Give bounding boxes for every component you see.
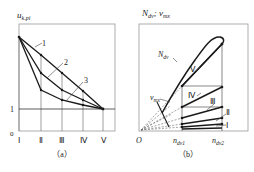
caption-a: （a） bbox=[52, 150, 72, 159]
figure: uk.pi 1 2 3 1 0 Ⅰ Ⅱ Ⅲ Ⅳ Ⅴ （a） bbox=[0, 0, 254, 172]
leader-V bbox=[196, 67, 200, 71]
ray-V bbox=[141, 86, 182, 130]
leader-1 bbox=[35, 43, 42, 47]
point-c1-III bbox=[61, 72, 63, 74]
point-c3-II bbox=[40, 89, 42, 91]
leader-I bbox=[216, 125, 226, 126]
ray-III bbox=[141, 118, 182, 130]
curve-label-3: 3 bbox=[84, 76, 88, 85]
x-tick-ndv1: ndv1 bbox=[173, 136, 185, 146]
gear-label-IV: Ⅳ bbox=[188, 91, 196, 100]
point-ndv1-III bbox=[181, 117, 184, 120]
panel-b: Ndv; vmx Ndv vmx Ⅴ Ⅳ Ⅲ Ⅱ Ⅰ O ndv1 ndv2 （… bbox=[136, 8, 248, 159]
point-c3-IV bbox=[82, 104, 84, 106]
point-ndv2-IV bbox=[221, 86, 224, 89]
y-axis-label-a: uk.pi bbox=[17, 10, 31, 21]
curve-label-vmx: vmx bbox=[150, 93, 161, 103]
x-tick-III: Ⅲ bbox=[59, 136, 65, 145]
point-c2-II bbox=[40, 72, 42, 74]
x-tick-II: Ⅱ bbox=[39, 136, 43, 145]
point-c1-IV bbox=[82, 90, 84, 92]
point-ndv1-IV bbox=[181, 106, 184, 109]
caption-b: （b） bbox=[178, 150, 198, 159]
y-axis-label-b: Ndv; vmx bbox=[141, 8, 170, 19]
y-tick-one: 1 bbox=[10, 105, 14, 114]
origin-label-b: O bbox=[136, 136, 142, 145]
gear-line-base bbox=[182, 128, 222, 129]
point-ndv2-I bbox=[221, 123, 224, 126]
x-tick-V: Ⅴ bbox=[101, 136, 107, 145]
gear-line-I bbox=[182, 124, 222, 127]
x-tick-I: Ⅰ bbox=[18, 136, 20, 145]
point-ndv1-V bbox=[181, 85, 184, 88]
leader-2 bbox=[47, 63, 63, 78]
x-tick-ndv2: ndv2 bbox=[212, 136, 224, 146]
leader-ndv bbox=[173, 58, 177, 62]
curve-label-ndv: Ndv bbox=[157, 50, 169, 60]
point-ndv1-I bbox=[181, 126, 184, 129]
point-c3-III bbox=[61, 99, 63, 101]
point-ndv1-II bbox=[181, 123, 184, 126]
ray-I bbox=[141, 127, 182, 130]
point-c2-III bbox=[61, 89, 63, 91]
vmx-line bbox=[157, 102, 169, 127]
point-end bbox=[102, 108, 105, 111]
point-start bbox=[18, 36, 21, 39]
point-ndv2-V bbox=[221, 43, 224, 46]
point-c2-IV bbox=[82, 99, 84, 101]
gear-label-I: Ⅰ bbox=[226, 121, 228, 130]
gear-label-II: Ⅱ bbox=[226, 108, 230, 117]
panel-a: uk.pi 1 2 3 1 0 Ⅰ Ⅱ Ⅲ Ⅳ Ⅴ （a） bbox=[10, 10, 115, 159]
dashed-rays bbox=[141, 86, 182, 130]
curve-label-1: 1 bbox=[42, 39, 46, 48]
curve-label-2: 2 bbox=[64, 58, 68, 67]
leader-IV bbox=[197, 93, 201, 96]
x-tick-IV: Ⅳ bbox=[80, 136, 88, 145]
origin-label-a: 0 bbox=[10, 130, 14, 138]
gear-line-III bbox=[182, 107, 222, 118]
leader-II bbox=[216, 114, 226, 121]
point-c1-II bbox=[40, 54, 42, 56]
gear-label-III: Ⅲ bbox=[210, 97, 216, 106]
point-ndv2-III bbox=[221, 106, 224, 109]
